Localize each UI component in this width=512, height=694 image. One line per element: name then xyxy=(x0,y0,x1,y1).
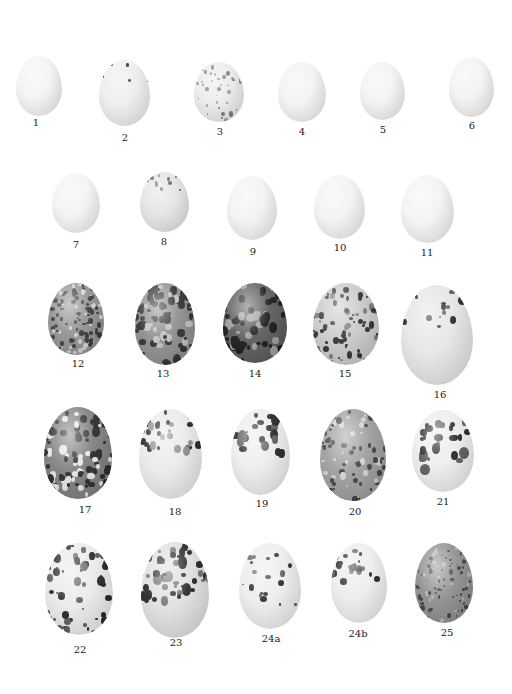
egg-25 xyxy=(415,543,473,623)
egg-marking xyxy=(275,356,282,362)
egg-17 xyxy=(44,407,112,499)
egg-marking xyxy=(272,284,278,289)
egg-label: 10 xyxy=(334,242,347,253)
egg-shading xyxy=(412,410,474,492)
egg-marking xyxy=(313,292,316,295)
egg-shading xyxy=(331,543,387,623)
egg-label: 25 xyxy=(441,627,454,638)
egg-marking xyxy=(141,187,142,189)
egg-shading xyxy=(194,62,244,122)
egg-9 xyxy=(227,176,277,240)
egg-shading xyxy=(16,56,62,116)
egg-12 xyxy=(48,283,104,355)
egg-2 xyxy=(99,60,150,126)
egg-marking xyxy=(291,620,294,624)
egg-marking xyxy=(412,424,414,426)
egg-shading xyxy=(415,543,473,623)
egg-marking xyxy=(459,546,460,548)
egg-8 xyxy=(140,172,189,232)
egg-shading xyxy=(360,62,405,120)
egg-marking xyxy=(314,358,318,364)
egg-marking xyxy=(135,290,140,300)
egg-marking xyxy=(195,72,197,74)
egg-marking xyxy=(192,347,195,352)
egg-marking xyxy=(99,346,103,352)
egg-marking xyxy=(102,629,107,633)
egg-21 xyxy=(412,410,474,492)
egg-label: 15 xyxy=(339,368,352,379)
egg-3 xyxy=(194,62,244,122)
egg-shading xyxy=(139,409,202,499)
egg-label: 2 xyxy=(122,132,128,143)
egg-marking xyxy=(239,614,243,617)
egg-marking xyxy=(468,290,472,294)
egg-marking xyxy=(320,361,326,365)
egg-marking xyxy=(242,72,244,75)
egg-marking xyxy=(150,410,155,414)
egg-marking xyxy=(469,609,471,612)
egg-marking xyxy=(416,608,419,610)
egg-label: 24a xyxy=(262,633,281,644)
egg-shading xyxy=(314,175,365,239)
egg-marking xyxy=(231,425,235,431)
egg-shading xyxy=(52,173,100,233)
egg-label: 24b xyxy=(348,628,367,639)
egg-label: 6 xyxy=(469,120,475,131)
egg-marking xyxy=(97,293,101,297)
egg-marking xyxy=(95,290,99,293)
egg-label: 17 xyxy=(79,504,92,515)
egg-marking xyxy=(416,550,417,552)
egg-marking xyxy=(183,359,189,364)
egg-marking xyxy=(423,616,424,618)
egg-label: 20 xyxy=(349,506,362,517)
egg-label: 3 xyxy=(217,126,223,137)
egg-marking xyxy=(465,551,467,554)
egg-label: 18 xyxy=(169,506,182,517)
egg-marking xyxy=(313,305,315,308)
egg-14 xyxy=(223,283,287,363)
egg-marking xyxy=(187,182,188,184)
egg-label: 14 xyxy=(249,368,262,379)
egg-15 xyxy=(313,283,379,365)
egg-marking xyxy=(462,619,465,622)
egg-marking xyxy=(329,284,331,287)
egg-marking xyxy=(51,550,54,552)
egg-marking xyxy=(51,288,56,293)
egg-shading xyxy=(278,62,326,122)
egg-label: 21 xyxy=(437,496,450,507)
egg-marking xyxy=(419,552,422,555)
egg-13 xyxy=(135,283,195,365)
egg-marking xyxy=(319,287,323,291)
egg-marking xyxy=(185,178,186,179)
egg-marking xyxy=(419,545,421,548)
egg-marking xyxy=(469,547,473,552)
egg-marking xyxy=(401,310,404,313)
egg-marking xyxy=(320,421,324,427)
egg-marking xyxy=(416,614,417,616)
egg-shading xyxy=(48,283,104,355)
egg-marking xyxy=(373,493,379,500)
egg-label: 23 xyxy=(170,637,183,648)
egg-16 xyxy=(401,285,473,385)
egg-marking xyxy=(59,283,62,286)
egg-label: 8 xyxy=(161,236,167,247)
egg-marking xyxy=(470,566,472,568)
egg-shading xyxy=(45,543,113,635)
egg-marking xyxy=(321,410,323,413)
egg-shading xyxy=(320,409,386,501)
egg-marking xyxy=(462,545,465,549)
egg-4 xyxy=(278,62,326,122)
egg-marking xyxy=(225,293,229,297)
egg-marking xyxy=(192,414,200,420)
egg-marking xyxy=(420,550,422,552)
egg-6 xyxy=(449,57,494,117)
egg-shading xyxy=(140,172,189,232)
egg-shading xyxy=(401,175,454,243)
egg-marking xyxy=(415,556,417,561)
egg-marking xyxy=(425,545,426,546)
egg-label: 13 xyxy=(157,368,170,379)
egg-label: 11 xyxy=(421,247,434,258)
egg-marking xyxy=(48,293,51,296)
egg-marking xyxy=(141,561,143,564)
egg-10 xyxy=(314,175,365,239)
